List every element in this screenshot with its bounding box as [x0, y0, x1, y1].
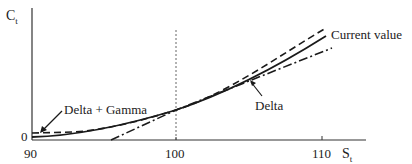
current-value-label: Current value — [331, 27, 402, 42]
x-tick-label-100: 100 — [165, 146, 185, 161]
delta-arrowhead-icon — [250, 80, 256, 86]
delta-gamma-arrow — [42, 111, 62, 131]
y-axis-label: Ct — [6, 8, 18, 26]
x-tick-label-110: 110 — [312, 146, 331, 161]
delta-label: Delta — [255, 98, 283, 113]
x-axis-label: St — [342, 146, 353, 164]
delta-gamma-label: Delta + Gamma — [64, 102, 147, 117]
delta-gamma-curve — [32, 28, 326, 133]
option-value-chart: Ct St 0 90 100 110 Delta + Gamma Delta C… — [0, 0, 412, 164]
y-tick-zero: 0 — [21, 129, 28, 144]
current-value-curve — [32, 36, 326, 137]
x-tick-label-90: 90 — [24, 146, 37, 161]
delta-line — [111, 48, 332, 140]
